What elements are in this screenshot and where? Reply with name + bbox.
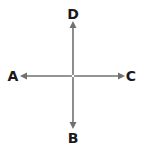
- label-top: D: [66, 7, 80, 21]
- direction-diagram: D B A C: [0, 0, 141, 153]
- arrow-left-icon: [20, 73, 27, 80]
- label-left: A: [6, 69, 20, 83]
- label-bottom: B: [66, 131, 80, 145]
- label-right: C: [124, 69, 138, 83]
- center-point: [72, 75, 74, 77]
- arrow-down-icon: [70, 122, 77, 129]
- arrow-up-icon: [70, 21, 77, 28]
